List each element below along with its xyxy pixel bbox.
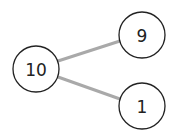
node-label: 10 [25,60,47,80]
node-10: 10 [13,46,59,92]
tree-diagram: 10 9 1 [0,0,177,134]
node-label: 9 [137,26,148,46]
node-9: 9 [119,12,165,58]
node-1: 1 [119,83,165,129]
node-label: 1 [137,97,148,117]
edge-10-1 [58,77,120,99]
edge-10-9 [58,41,120,61]
